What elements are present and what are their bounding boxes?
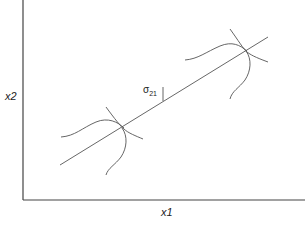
x-axis-label: x1 — [160, 206, 173, 218]
upper-distribution — [185, 29, 268, 99]
upper-horizontal-curve — [185, 44, 247, 60]
sigma-subscript: 21 — [149, 90, 157, 97]
y-axis-label: x2 — [4, 90, 17, 102]
regression-line — [60, 37, 268, 165]
sigma-label: σ21 — [143, 84, 157, 97]
lower-distribution — [61, 107, 143, 175]
diagram-canvas: x2 x1 σ21 — [0, 0, 305, 231]
lower-crossing-arc — [106, 107, 143, 139]
lower-horizontal-curve — [61, 120, 124, 137]
